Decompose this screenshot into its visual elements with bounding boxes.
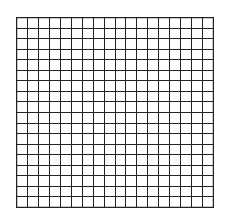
square-grid <box>16 17 214 208</box>
grid-lines <box>16 17 214 208</box>
